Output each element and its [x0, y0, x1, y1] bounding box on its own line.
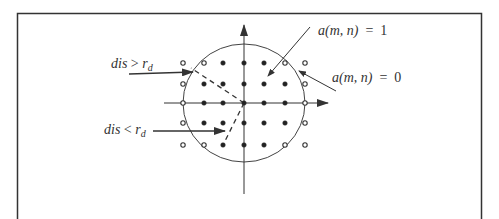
label-func: a — [332, 70, 339, 85]
filled-dot — [242, 143, 247, 148]
filled-dot — [202, 101, 207, 106]
label-op: < — [124, 122, 132, 137]
hollow-dot — [181, 143, 185, 147]
filled-dot — [221, 121, 226, 126]
filled-dot — [221, 61, 226, 66]
hollow-dot — [303, 143, 307, 147]
filled-dot — [262, 143, 267, 148]
distance-line-outside — [191, 68, 244, 103]
filled-dot — [202, 121, 207, 126]
hollow-dot — [303, 82, 307, 86]
arrow-a-zero — [299, 71, 336, 91]
label-a-equals-0: a(m, n) = 0 — [332, 71, 401, 85]
hollow-dot — [283, 61, 287, 65]
filled-dot — [262, 61, 267, 66]
hollow-dot — [181, 101, 185, 105]
diagram: dis > rd dis < rd a(m, n) = 1 a(m, n) = … — [0, 0, 499, 219]
hollow-dot — [283, 143, 287, 147]
hollow-dot — [303, 101, 307, 105]
filled-dot — [262, 101, 267, 106]
filled-dot — [283, 82, 288, 87]
label-var: dis — [111, 56, 127, 71]
filled-dot — [242, 121, 247, 126]
distance-line-inside — [223, 103, 244, 145]
label-value: 1 — [380, 23, 387, 38]
label-sub: d — [141, 128, 146, 139]
label-args: (m, n) — [325, 23, 358, 38]
hollow-dot — [303, 61, 307, 65]
filled-dot — [221, 101, 226, 106]
label-value: 0 — [394, 70, 401, 85]
hollow-dot — [181, 82, 185, 86]
filled-dot — [242, 82, 247, 87]
hollow-dot — [202, 143, 206, 147]
hollow-dot — [181, 121, 185, 125]
filled-dot — [262, 121, 267, 126]
filled-dot — [283, 121, 288, 126]
figure-canvas — [0, 0, 499, 219]
filled-dot — [262, 82, 267, 87]
hollow-dot — [181, 61, 185, 65]
label-func: a — [318, 23, 325, 38]
filled-dot — [221, 82, 226, 87]
hollow-dot — [202, 61, 206, 65]
label-sub: d — [148, 62, 153, 73]
label-op: > — [131, 56, 139, 71]
label-args: (m, n) — [339, 70, 372, 85]
filled-dot — [202, 82, 207, 87]
label-dis-less-rd: dis < rd — [104, 123, 146, 139]
label-a-equals-1: a(m, n) = 1 — [318, 24, 387, 38]
filled-dot — [283, 101, 288, 106]
label-var: dis — [104, 122, 120, 137]
label-dis-greater-rd: dis > rd — [111, 57, 153, 73]
filled-dot — [242, 61, 247, 66]
filled-dot — [242, 101, 247, 106]
filled-dot — [221, 143, 226, 148]
hollow-dot — [303, 121, 307, 125]
